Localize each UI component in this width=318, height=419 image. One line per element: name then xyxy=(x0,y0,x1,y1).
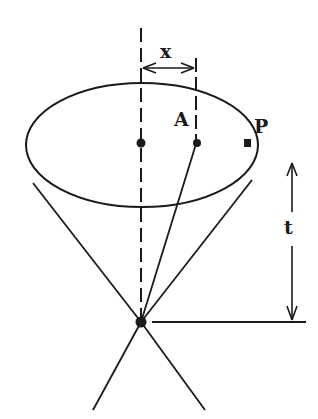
cone-right-edge xyxy=(141,180,252,322)
label-x: x xyxy=(160,42,171,61)
center-point xyxy=(137,139,146,148)
label-t: t xyxy=(284,218,293,237)
worldline-to-a xyxy=(141,144,196,322)
cone-lower-left xyxy=(93,322,141,410)
cone-left-edge xyxy=(33,183,141,322)
cone-lower-right xyxy=(141,322,205,410)
label-a: A xyxy=(174,110,189,129)
label-p: P xyxy=(254,117,268,136)
point-a xyxy=(193,139,201,147)
point-p xyxy=(244,139,251,147)
light-cone-diagram xyxy=(0,0,318,419)
apex-point xyxy=(136,317,147,328)
